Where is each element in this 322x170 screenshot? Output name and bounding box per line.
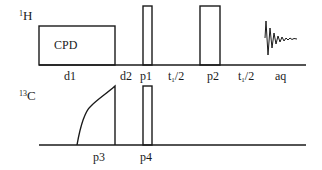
label-p3: p3 — [93, 150, 105, 164]
pulse-p1 — [143, 6, 152, 65]
cpd-label: CPD — [54, 38, 78, 52]
nucleus-symbol: H — [23, 8, 32, 23]
fid-icon — [265, 21, 297, 55]
channel-label-13c: 13C — [19, 88, 36, 103]
nucleus-symbol: C — [27, 88, 36, 103]
pulse-p2 — [200, 6, 220, 65]
label-aq: aq — [275, 69, 286, 83]
label-d2: d2 — [120, 69, 132, 83]
pulse-p4 — [143, 86, 152, 145]
label-t1-half-1: t1/2 — [168, 69, 184, 84]
label-p4: p4 — [140, 150, 152, 164]
label-d1: d1 — [64, 69, 76, 83]
label-p1: p1 — [140, 69, 152, 83]
pulse-sequence-diagram: 1H CPD d1 d2 p1 t1/2 p2 t1/2 aq 13C p3 p… — [0, 0, 322, 170]
t-fraction: /2 — [245, 69, 254, 83]
channel-label-1h: 1H — [19, 8, 32, 23]
t-fraction: /2 — [175, 69, 184, 83]
label-t1-half-2: t1/2 — [238, 69, 254, 84]
pulse-p3-shaped — [77, 86, 115, 145]
label-p2: p2 — [207, 69, 219, 83]
isotope-mass: 13 — [19, 89, 27, 98]
